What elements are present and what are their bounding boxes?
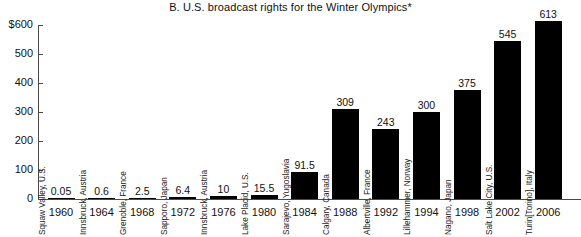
x-axis-year-label: 1988 xyxy=(333,206,357,218)
x-axis-year-label: 1998 xyxy=(455,206,479,218)
x-axis-year-label: 1994 xyxy=(414,206,438,218)
x-axis-year-label: 2006 xyxy=(536,206,560,218)
x-axis-year-label: 1960 xyxy=(49,206,73,218)
x-axis-year-label: 2002 xyxy=(495,206,519,218)
x-axis-year-label: 1984 xyxy=(292,206,316,218)
x-axis-year-label: 1972 xyxy=(171,206,195,218)
x-axis-year-labels: 1960196419681972197619801984198819921994… xyxy=(0,0,581,237)
x-axis-year-label: 1968 xyxy=(130,206,154,218)
x-axis-year-label: 1980 xyxy=(252,206,276,218)
bar-chart: B. U.S. broadcast rights for the Winter … xyxy=(0,0,581,237)
x-axis-year-label: 1964 xyxy=(89,206,113,218)
x-axis-year-label: 1992 xyxy=(374,206,398,218)
x-axis-year-label: 1976 xyxy=(211,206,235,218)
